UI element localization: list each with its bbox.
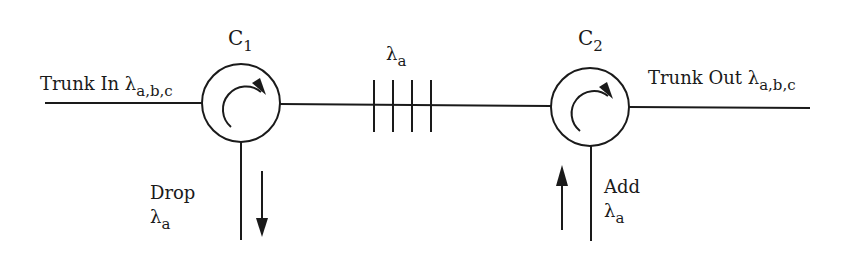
circulator-c1-body xyxy=(202,64,280,142)
arrow-up-icon xyxy=(556,165,568,186)
add-wavelength: λa xyxy=(604,200,624,227)
fiber-bragg-grating: λa xyxy=(374,43,431,132)
grating-fiber xyxy=(280,104,551,106)
grating-label: λa xyxy=(386,43,406,70)
trunk-out-fiber xyxy=(629,107,810,108)
circulation-arc-icon xyxy=(223,86,261,127)
drop-label: Drop xyxy=(150,182,195,203)
circulator-c1: C1 xyxy=(202,26,280,142)
circulator-c2-label: C2 xyxy=(578,26,603,55)
trunk-in-label: Trunk In λa,b,c xyxy=(40,73,173,100)
drop-wavelength: λa xyxy=(150,206,170,233)
circulator-c1-label: C1 xyxy=(228,26,253,55)
circulation-arrowhead-icon xyxy=(252,78,266,95)
circulator-c2-body xyxy=(551,68,629,146)
trunk-out-label: Trunk Out λa,b,c xyxy=(648,67,796,94)
circulator-c2: C2 xyxy=(551,26,629,146)
oadm-diagram: Trunk In λa,b,c C1 λa C2 Trunk Out λa,b,… xyxy=(0,0,853,254)
circulation-arrowhead-icon xyxy=(599,82,613,99)
add-label: Add xyxy=(603,176,640,197)
arrow-down-icon xyxy=(256,218,268,237)
circulation-arc-icon xyxy=(572,91,608,131)
